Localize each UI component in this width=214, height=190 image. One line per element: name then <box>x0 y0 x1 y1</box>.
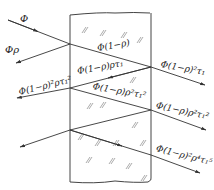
reflected-ray-1 <box>16 44 70 63</box>
plate-diagram <box>0 0 214 190</box>
label-reflected-first: Φρ <box>5 45 19 55</box>
internal-ray-4 <box>70 110 151 130</box>
reflected-ray-3 <box>20 130 70 147</box>
label-incident: Φ <box>20 14 28 24</box>
